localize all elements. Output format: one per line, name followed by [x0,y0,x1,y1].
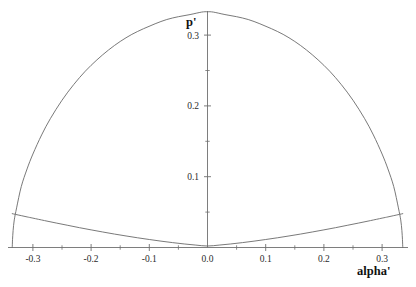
y-axis-tick-labels: 0.10.20.3 [187,31,199,183]
x-tick-label: -0.1 [142,254,157,264]
y-axis-title: p' [186,15,196,29]
x-tick-label: 0.1 [260,254,272,264]
y-tick-label: 0.1 [187,172,199,182]
x-tick-label: 0.0 [202,254,214,264]
x-tick-label: 0.3 [376,254,388,264]
x-tick-label: 0.2 [318,254,330,264]
x-axis-tick-labels: -0.3-0.2-0.10.00.10.20.3 [25,254,388,264]
x-tick-label: -0.2 [84,254,99,264]
chart-figure: -0.3-0.2-0.10.00.10.20.3 0.10.20.3 p' al… [0,0,416,287]
x-tick-label: -0.3 [25,254,40,264]
x-axis-title: alpha' [357,264,390,278]
chart-canvas: -0.3-0.2-0.10.00.10.20.3 0.10.20.3 p' al… [0,0,416,287]
y-tick-label: 0.3 [187,31,199,41]
y-tick-label: 0.2 [187,101,199,111]
